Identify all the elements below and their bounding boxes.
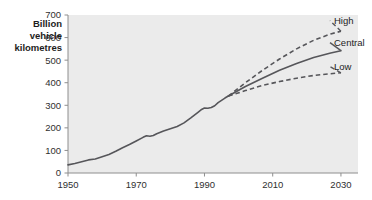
series-label-central: Central xyxy=(334,37,365,48)
y-axis-title-line-1: Billion xyxy=(33,18,62,29)
y-tick-label: 0 xyxy=(56,167,61,178)
x-tick-label: 1950 xyxy=(57,179,78,190)
chart-figure: 0100200300400500600700 19501970199020102… xyxy=(0,0,372,200)
series-label-low: Low xyxy=(334,61,352,72)
y-axis-tick-marks xyxy=(65,15,69,173)
y-tick-label: 100 xyxy=(45,145,61,156)
chart-canvas: 0100200300400500600700 19501970199020102… xyxy=(0,0,372,200)
y-tick-label: 300 xyxy=(45,100,61,111)
plot-background xyxy=(68,15,358,173)
y-axis-title-line-3: kilometres xyxy=(14,42,62,53)
series-label-group: HighCentralLow xyxy=(330,15,365,73)
y-axis-title: Billion vehicle kilometres xyxy=(14,18,62,53)
y-tick-label: 500 xyxy=(45,55,61,66)
x-tick-label: 2030 xyxy=(330,179,351,190)
x-axis: 19501970199020102030 xyxy=(57,173,358,190)
series-label-high: High xyxy=(334,15,354,26)
x-axis-tick-marks xyxy=(68,173,341,177)
x-axis-tick-labels: 19501970199020102030 xyxy=(57,179,351,190)
y-axis-title-line-2: vehicle xyxy=(30,30,62,41)
y-tick-label: 400 xyxy=(45,77,61,88)
x-tick-label: 1990 xyxy=(194,179,215,190)
x-tick-label: 1970 xyxy=(126,179,147,190)
y-tick-label: 200 xyxy=(45,122,61,133)
x-tick-label: 2010 xyxy=(262,179,283,190)
